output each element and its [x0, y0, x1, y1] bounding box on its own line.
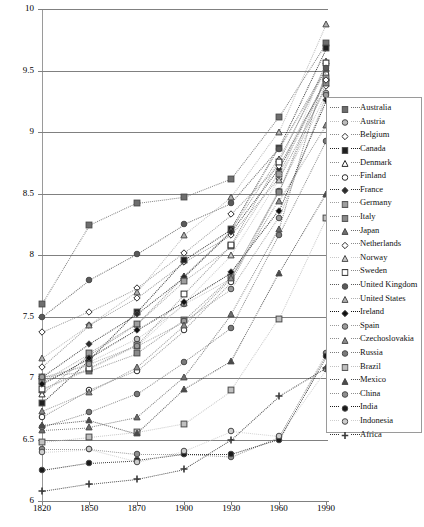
legend-symbol	[330, 428, 360, 440]
legend-label: Japan	[360, 226, 379, 235]
series-connector	[184, 440, 232, 470]
y-tick-label: 7.5	[8, 312, 34, 321]
legend-label: Finland	[360, 171, 386, 180]
legend-label: Germany	[360, 198, 392, 207]
series-connector	[278, 368, 326, 397]
x-axis-line	[42, 501, 329, 502]
y-tick-label: 6.5	[8, 435, 34, 444]
legend-label: Africa	[360, 430, 382, 439]
series-connector	[137, 469, 185, 480]
y-tick-label: 8	[8, 250, 34, 259]
x-tick-label: 1930	[211, 503, 251, 513]
x-tick-label: 1850	[69, 503, 109, 513]
data-point	[228, 436, 235, 443]
legend: AustraliaAustriaBelgiumCanadaDenmarkFinl…	[326, 97, 422, 433]
y-tick-label: 9.5	[8, 66, 34, 75]
y-tick-label: 9	[8, 127, 34, 136]
legend-label: Russia	[360, 348, 383, 357]
series-connector	[42, 484, 89, 492]
legend-label: Ireland	[360, 307, 384, 316]
data-point	[133, 475, 140, 482]
series-connector	[89, 479, 136, 485]
legend-label: Belgium	[360, 130, 389, 139]
x-tick-label: 1900	[164, 503, 204, 513]
series-africa	[42, 9, 328, 501]
x-tick-label: 1870	[117, 503, 157, 513]
x-tick-label: 1960	[259, 503, 299, 513]
legend-label: Canada	[360, 144, 386, 153]
legend-label: Italy	[360, 212, 376, 221]
series-connector	[231, 397, 279, 441]
y-tick-label: 10	[8, 4, 34, 13]
y-tick-label: 8.5	[8, 189, 34, 198]
data-point	[39, 488, 46, 495]
legend-label: Spain	[360, 321, 379, 330]
plot-area	[42, 9, 328, 501]
legend-item-africa[interactable]: Africa	[327, 427, 421, 441]
legend-label: Mexico	[360, 375, 386, 384]
legend-label: Brazil	[360, 362, 381, 371]
x-tick-label: 1820	[22, 503, 62, 513]
legend-label: Australia	[360, 103, 391, 112]
data-point	[86, 480, 93, 487]
legend-label: United States	[360, 294, 406, 303]
legend-label: United Kingdom	[360, 280, 417, 289]
data-point	[181, 466, 188, 473]
legend-label: China	[360, 389, 380, 398]
legend-label: Denmark	[360, 158, 392, 167]
legend-label: India	[360, 402, 377, 411]
legend-label: Indonesia	[360, 416, 393, 425]
legend-label: Norway	[360, 253, 387, 262]
legend-label: Sweden	[360, 266, 387, 275]
data-point	[275, 393, 282, 400]
x-tick-label: 1990	[306, 503, 346, 513]
legend-label: Czechoslovakia	[360, 334, 414, 343]
y-tick-label: 7	[8, 373, 34, 382]
gdp-per-capita-log-chart: 109.598.587.576.56 182018501870190019301…	[0, 0, 424, 527]
legend-label: Netherlands	[360, 239, 401, 248]
legend-label: France	[360, 185, 383, 194]
legend-label: Austria	[360, 117, 385, 126]
